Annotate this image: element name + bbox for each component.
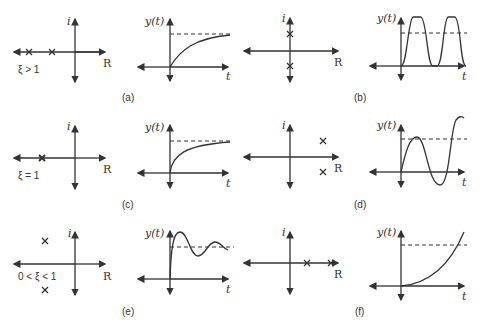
response-plot-c: y(t) t (138, 121, 232, 190)
s-plane-a: i R ξ > 1 (14, 15, 112, 82)
t-axis-label: t (462, 70, 467, 83)
t-axis-label: t (226, 177, 231, 190)
response-plot-e: y(t) t (138, 227, 234, 296)
caption-a: (a) (122, 92, 134, 103)
y-axis-label: y(t) (376, 226, 396, 239)
panel-d: i R y(t) t (d) (244, 117, 467, 210)
y-axis-label: y(t) (144, 227, 164, 240)
imag-axis-label: i (282, 12, 286, 25)
real-axis-label: R (103, 270, 112, 283)
imag-axis-label: i (67, 120, 71, 133)
damping-condition: ξ > 1 (18, 64, 40, 76)
response-plot-b: y(t) t (370, 12, 467, 83)
t-axis-label: t (462, 176, 467, 189)
t-axis-label: t (462, 290, 467, 303)
caption-f: (f) (355, 306, 364, 317)
pole-marker (42, 238, 48, 244)
caption-e: (e) (122, 306, 134, 317)
t-axis-label: t (226, 283, 231, 296)
t-axis-label: t (226, 70, 231, 83)
damping-condition: 0 < ξ < 1 (18, 271, 57, 283)
s-plane-d: i R (244, 119, 343, 188)
imag-axis-label: i (67, 15, 71, 28)
real-axis-label: R (334, 268, 343, 281)
s-plane-c: i R ξ = 1 (14, 120, 112, 189)
pole-marker (320, 138, 326, 144)
pole-marker (42, 287, 48, 293)
panel-b: i R y(t) t (b) (244, 12, 467, 103)
pole-response-diagram: i R ξ > 1 y(t) t (a) i R (0, 0, 480, 327)
panel-f: i R y(t) t (f) (244, 226, 467, 317)
pole-marker (320, 169, 326, 175)
s-plane-f: i R (244, 226, 343, 294)
imag-axis-label: i (282, 119, 286, 132)
panel-e: i R 0 < ξ < 1 y(t) t (e) (14, 227, 234, 317)
y-axis-label: y(t) (144, 15, 164, 28)
y-axis-label: y(t) (144, 121, 164, 134)
real-axis-label: R (103, 57, 112, 70)
caption-d: (d) (354, 199, 366, 210)
caption-c: (c) (122, 199, 134, 210)
real-axis-label: R (334, 162, 343, 175)
s-plane-e: i R 0 < ξ < 1 (14, 227, 112, 295)
real-axis-label: R (103, 163, 112, 176)
real-axis-label: R (334, 56, 343, 69)
response-plot-a: y(t) t (138, 15, 232, 83)
panel-c: i R ξ = 1 y(t) t (c) (14, 120, 232, 210)
damping-condition: ξ = 1 (18, 170, 40, 182)
y-axis-label: y(t) (376, 12, 396, 25)
imag-axis-label: i (282, 226, 286, 239)
s-plane-b: i R (244, 12, 343, 82)
panel-a: i R ξ > 1 y(t) t (a) (14, 15, 232, 103)
response-plot-d: y(t) t (370, 117, 467, 189)
imag-axis-label: i (68, 227, 72, 240)
response-plot-f: y(t) t (370, 226, 467, 303)
y-axis-label: y(t) (376, 119, 396, 132)
caption-b: (b) (354, 92, 366, 103)
